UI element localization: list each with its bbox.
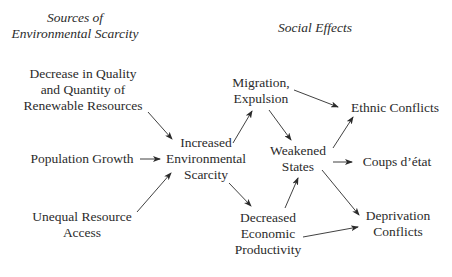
node-text: Migration, [232,75,289,91]
effects-heading-text: Social Effects [278,20,352,36]
node-unequal-access: Unequal Resource Access [32,209,131,241]
node-text: States [270,159,326,175]
node-migration: Migration, Expulsion [232,75,289,107]
arrow-productivity-to-weakened [285,178,298,208]
node-text: Productivity [235,242,302,258]
node-text: Unequal Resource [32,209,131,225]
arrow-migration-to-weakened [269,110,291,140]
node-text: Renewable Resources [24,98,143,114]
node-text: Population Growth [30,151,133,167]
effects-heading: Social Effects [278,20,352,36]
node-text: Expulsion [232,91,289,107]
node-text: Coups d’état [363,154,432,170]
node-text: Decrease in Quality [24,66,143,82]
node-coups: Coups d’état [363,154,432,170]
arrow-scarcity-to-productivity [229,183,251,206]
arrow-weakened-to-ethnic [333,117,353,148]
node-text: Deprivation [366,208,430,224]
node-population-growth: Population Growth [30,151,133,167]
arrow-productivity-to-deprivation [303,227,358,237]
node-text: Weakened [270,143,326,159]
node-text: Access [32,225,131,241]
sources-heading-line1: Sources of [12,10,139,26]
node-text: Economic [235,226,302,242]
node-text: Conflicts [366,224,430,240]
node-text: Environmental [166,151,246,167]
node-ethnic-conflicts: Ethnic Conflicts [351,100,439,116]
node-weakened-states: Weakened States [270,143,326,175]
node-increased-scarcity: Increased Environmental Scarcity [166,135,246,183]
arrow-migration-to-ethnic [294,90,338,107]
sources-heading-line2: Environmental Scarcity [12,26,139,42]
node-deprivation-conflicts: Deprivation Conflicts [366,208,430,240]
node-decreased-productivity: Decreased Economic Productivity [235,210,302,258]
node-text: Decreased [235,210,302,226]
node-text: and Quantity of [24,82,143,98]
node-text: Increased [166,135,246,151]
node-text: Ethnic Conflicts [351,100,439,116]
sources-heading: Sources of Environmental Scarcity [12,10,139,42]
node-decrease-quality: Decrease in Quality and Quantity of Rene… [24,66,143,114]
node-text: Scarcity [166,167,246,183]
arrow-weakened-to-deprivation [322,170,359,215]
